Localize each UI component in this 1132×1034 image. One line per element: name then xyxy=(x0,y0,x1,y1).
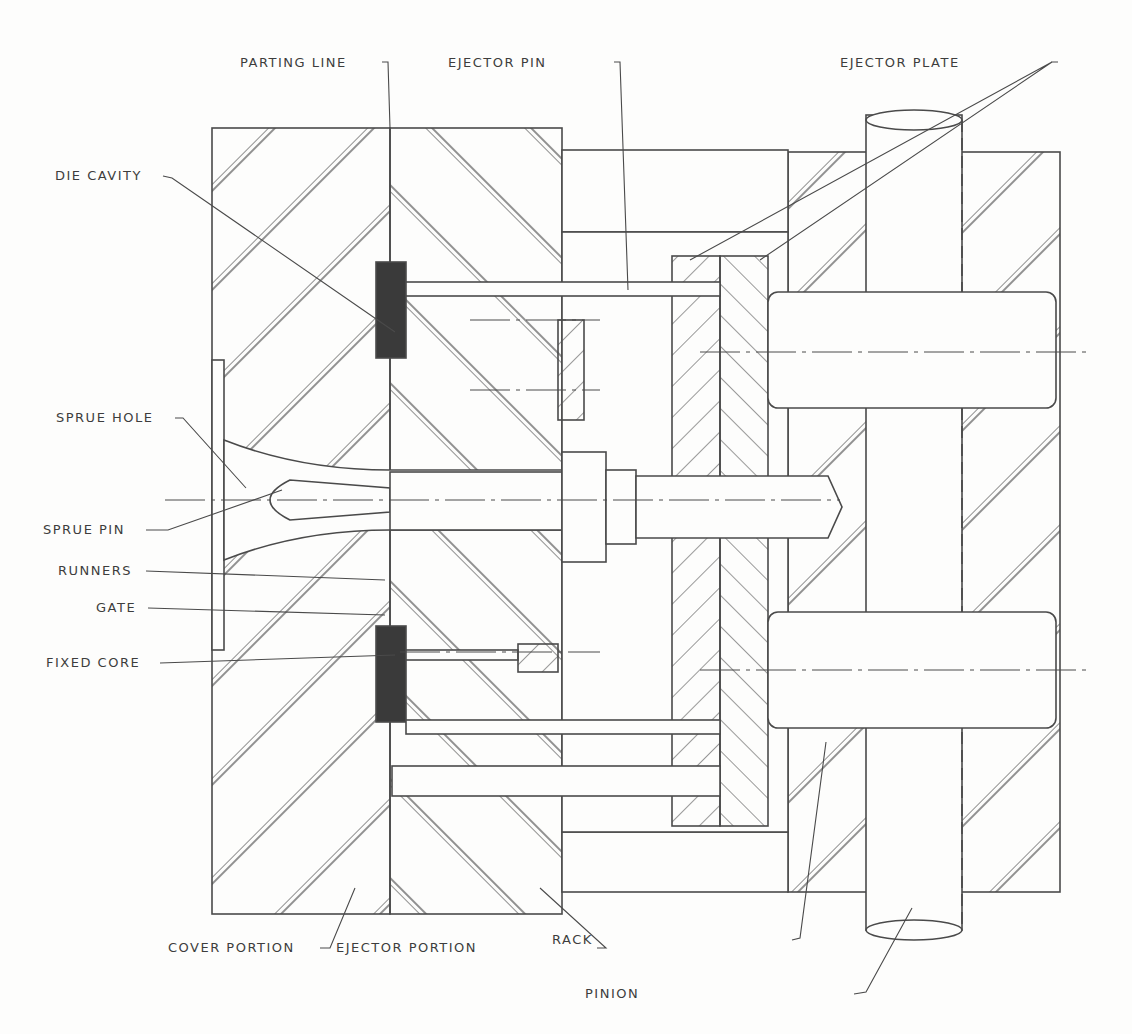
label-cover-portion: COVER PORTION xyxy=(168,940,295,955)
label-sprue-pin: SPRUE PIN xyxy=(43,522,125,537)
die-casting-diagram: PARTING LINE EJECTOR PIN EJECTOR PLATE D… xyxy=(0,0,1132,1034)
mold-cross-section-drawing xyxy=(0,0,1132,1034)
ejector-plate-rear xyxy=(720,256,768,826)
label-ejector-plate: EJECTOR PLATE xyxy=(840,55,960,70)
upper-rack xyxy=(768,292,1056,408)
label-ejector-portion: EJECTOR PORTION xyxy=(336,940,477,955)
label-runners: RUNNERS xyxy=(58,563,132,578)
label-die-cavity: DIE CAVITY xyxy=(55,168,142,183)
pinion-shaft xyxy=(866,115,962,930)
label-ejector-pin: EJECTOR PIN xyxy=(448,55,547,70)
ejector-plate-front xyxy=(672,256,720,826)
die-cavity-upper xyxy=(376,262,406,358)
die-cavity-lower xyxy=(376,626,406,722)
label-gate: GATE xyxy=(96,600,136,615)
label-parting-line: PARTING LINE xyxy=(240,55,347,70)
ejector-pin-upper xyxy=(406,282,720,296)
label-rack: RACK xyxy=(552,932,593,947)
label-pinion: PINION xyxy=(585,986,639,1001)
label-fixed-core: FIXED CORE xyxy=(46,655,140,670)
label-sprue-hole: SPRUE HOLE xyxy=(56,410,153,425)
